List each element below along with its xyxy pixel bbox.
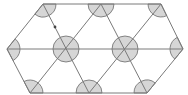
angle-sector <box>7 39 20 61</box>
lattice-edge <box>7 4 43 49</box>
point-marker <box>54 26 57 29</box>
lattice-edge <box>147 49 183 93</box>
lattice-lines <box>7 4 183 93</box>
lattice-diagram <box>0 0 188 95</box>
marker-dot <box>54 26 57 29</box>
angle-sector <box>170 37 183 59</box>
